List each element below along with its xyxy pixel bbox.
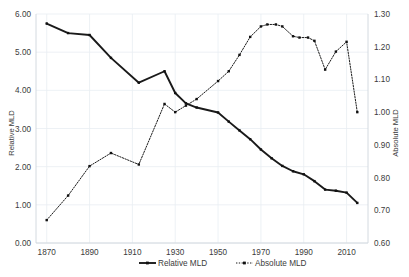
data-point-marker — [313, 40, 315, 42]
x-tick-label: 1970 — [252, 248, 271, 257]
data-point-marker — [292, 35, 294, 37]
data-point-marker — [335, 50, 337, 52]
data-point-marker — [313, 180, 315, 182]
data-point-marker — [249, 138, 251, 140]
mld-line-chart: 0.001.002.003.004.005.006.00 0.600.700.8… — [0, 0, 409, 277]
data-point-marker — [238, 54, 240, 56]
data-point-marker — [260, 25, 262, 27]
right-axis-title: Absolute MLD — [391, 109, 400, 157]
series-line-absolute-mld — [47, 24, 358, 220]
data-point-marker — [217, 80, 219, 82]
chart-container: 0.001.002.003.004.005.006.00 0.600.700.8… — [0, 0, 409, 277]
data-point-marker — [195, 98, 197, 100]
data-point-marker — [110, 152, 112, 154]
data-point-marker — [67, 32, 69, 34]
left-axis-tick-labels: 0.001.002.003.004.005.006.00 — [15, 10, 31, 248]
data-point-marker — [174, 111, 176, 113]
right-tick-label: 1.10 — [374, 75, 390, 84]
right-tick-label: 0.60 — [374, 239, 390, 248]
data-point-marker — [88, 165, 90, 167]
legend-label: Relative MLD — [158, 259, 207, 268]
data-point-marker — [228, 120, 230, 122]
x-tick-label: 1950 — [209, 248, 228, 257]
right-tick-label: 1.20 — [374, 43, 390, 52]
right-tick-label: 1.00 — [374, 108, 390, 117]
chart-legend: Relative MLDAbsolute MLD — [139, 259, 307, 268]
data-point-marker — [266, 23, 268, 25]
x-tick-label: 1990 — [295, 248, 314, 257]
x-tick-label: 1910 — [123, 248, 142, 257]
data-point-marker — [281, 165, 283, 167]
data-point-marker — [163, 70, 165, 72]
left-axis-title: Relative MLD — [7, 110, 16, 156]
x-tick-label: 1930 — [166, 248, 185, 257]
data-point-marker — [67, 194, 69, 196]
data-point-marker — [356, 111, 358, 113]
x-tick-label: 2010 — [337, 248, 356, 257]
right-tick-label: 0.80 — [374, 174, 390, 183]
legend-marker — [243, 262, 246, 265]
x-tick-label: 1870 — [38, 248, 57, 257]
data-point-marker — [345, 191, 347, 193]
data-point-marker — [298, 36, 300, 38]
left-tick-label: 1.00 — [15, 201, 31, 210]
right-tick-label: 1.30 — [374, 10, 390, 19]
data-point-marker — [110, 57, 112, 59]
left-tick-label: 0.00 — [15, 239, 31, 248]
left-tick-label: 5.00 — [15, 48, 31, 57]
legend-marker — [146, 262, 149, 265]
data-point-marker — [195, 106, 197, 108]
x-axis-tick-labels: 18701890191019301950197019902010 — [38, 248, 357, 257]
data-point-marker — [270, 157, 272, 159]
data-point-marker — [185, 102, 187, 104]
gridlines — [36, 14, 368, 243]
data-point-marker — [228, 70, 230, 72]
left-tick-label: 4.00 — [15, 86, 31, 95]
data-point-marker — [46, 219, 48, 221]
data-point-marker — [138, 82, 140, 84]
data-point-marker — [260, 148, 262, 150]
data-point-marker — [249, 36, 251, 38]
data-point-marker — [307, 36, 309, 38]
data-point-marker — [138, 163, 140, 165]
data-point-marker — [303, 173, 305, 175]
legend-label: Absolute MLD — [255, 259, 307, 268]
data-point-marker — [217, 111, 219, 113]
data-point-marker — [238, 129, 240, 131]
right-axis-tick-labels: 0.600.700.800.901.001.101.201.30 — [374, 10, 390, 248]
data-point-marker — [185, 104, 187, 106]
data-point-marker — [356, 202, 358, 204]
data-point-marker — [345, 41, 347, 43]
right-tick-label: 0.90 — [374, 141, 390, 150]
series-line-relative-mld — [47, 24, 358, 203]
data-point-marker — [281, 25, 283, 27]
data-point-marker — [174, 92, 176, 94]
data-point-marker — [324, 68, 326, 70]
data-point-marker — [46, 22, 48, 24]
data-point-marker — [275, 23, 277, 25]
data-point-marker — [163, 103, 165, 105]
left-tick-label: 2.00 — [15, 163, 31, 172]
data-point-marker — [324, 188, 326, 190]
left-tick-label: 6.00 — [15, 10, 31, 19]
data-point-marker — [292, 170, 294, 172]
left-tick-label: 3.00 — [15, 125, 31, 134]
x-tick-label: 1890 — [80, 248, 99, 257]
data-point-marker — [335, 190, 337, 192]
data-point-marker — [88, 34, 90, 36]
right-tick-label: 0.70 — [374, 206, 390, 215]
